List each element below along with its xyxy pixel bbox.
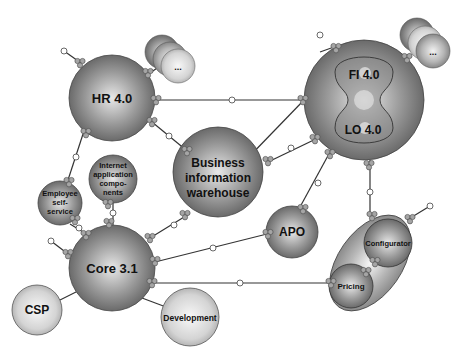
more-fi-label: ... <box>429 47 437 57</box>
more-hr-label: ... <box>174 62 182 72</box>
hr-label: HR 4.0 <box>92 91 132 106</box>
ess-label-line-2: self- <box>52 198 68 207</box>
ess-label-line-3: service <box>47 207 73 216</box>
biw-label-line-2: information <box>185 171 251 185</box>
node-internet-application-components[interactable]: Internet application compo- nents <box>89 155 137 203</box>
node-csp[interactable]: CSP <box>12 285 62 335</box>
development-label: Development <box>163 313 217 323</box>
node-fi[interactable]: FI 4.0 <box>349 67 380 82</box>
csp-label: CSP <box>25 303 50 317</box>
iac-label-line-2: application <box>93 170 133 179</box>
node-lo[interactable]: LO 4.0 <box>345 122 382 137</box>
iac-label-line-1: Internet <box>99 161 127 170</box>
configurator-label: Configurator <box>365 239 410 248</box>
node-business-information-warehouse[interactable]: Business information warehouse <box>173 127 263 217</box>
ess-label-line-1: Employee <box>42 189 77 198</box>
core-label: Core 3.1 <box>86 261 137 276</box>
component-diagram: ... ... HR 4.0 FI 4.0 LO 4.0 Business in… <box>0 0 465 363</box>
iac-label-line-3: compo- <box>99 179 127 188</box>
biw-label-line-3: warehouse <box>186 186 250 200</box>
iac-label-line-4: nents <box>103 188 123 197</box>
lo-label: LO 4.0 <box>345 123 382 137</box>
biw-label-line-1: Business <box>191 156 245 170</box>
node-hr[interactable]: HR 4.0 <box>69 55 155 141</box>
apo-label: APO <box>279 225 305 239</box>
node-apo[interactable]: APO <box>266 206 318 258</box>
more-components-stack-hr[interactable]: ... <box>145 35 195 83</box>
pricing-label: Pricing <box>337 282 364 291</box>
fi-label: FI 4.0 <box>349 68 380 82</box>
node-development[interactable]: Development <box>161 288 219 346</box>
node-core[interactable]: Core 3.1 <box>69 225 155 311</box>
